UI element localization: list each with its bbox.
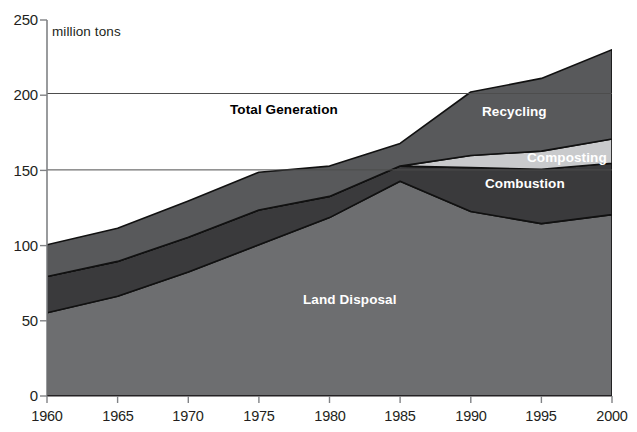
x-tick-label-1995: 1995 <box>511 408 571 424</box>
series-label-composting: Composting <box>527 150 607 165</box>
x-tick-label-2000: 2000 <box>582 408 637 424</box>
x-tick-label-1960: 1960 <box>17 408 77 424</box>
stacked-area-chart: million tons 250 200 150 100 50 0 1960 1… <box>0 0 637 432</box>
series-label-combustion: Combustion <box>485 176 565 191</box>
x-tick-label-1985: 1985 <box>370 408 430 424</box>
x-tick-label-1970: 1970 <box>158 408 218 424</box>
x-tick-label-1975: 1975 <box>229 408 289 424</box>
y-tick-label-100: 100 <box>0 237 38 254</box>
chart-canvas <box>0 0 637 432</box>
y-tick-label-0: 0 <box>0 387 38 404</box>
series-label-land-disposal: Land Disposal <box>303 292 397 307</box>
y-tick-label-250: 250 <box>0 11 38 28</box>
y-tick-label-150: 150 <box>0 162 38 179</box>
x-tick-label-1990: 1990 <box>441 408 501 424</box>
y-tick-label-200: 200 <box>0 86 38 103</box>
y-tick-label-50: 50 <box>0 312 38 329</box>
y-axis-unit-label: million tons <box>52 24 121 39</box>
series-label-recycling: Recycling <box>482 104 547 119</box>
x-tick-marks <box>47 396 612 403</box>
series-label-total-generation: Total Generation <box>230 102 338 117</box>
x-tick-label-1965: 1965 <box>88 408 148 424</box>
x-tick-label-1980: 1980 <box>300 408 360 424</box>
y-tick-marks <box>40 20 47 396</box>
